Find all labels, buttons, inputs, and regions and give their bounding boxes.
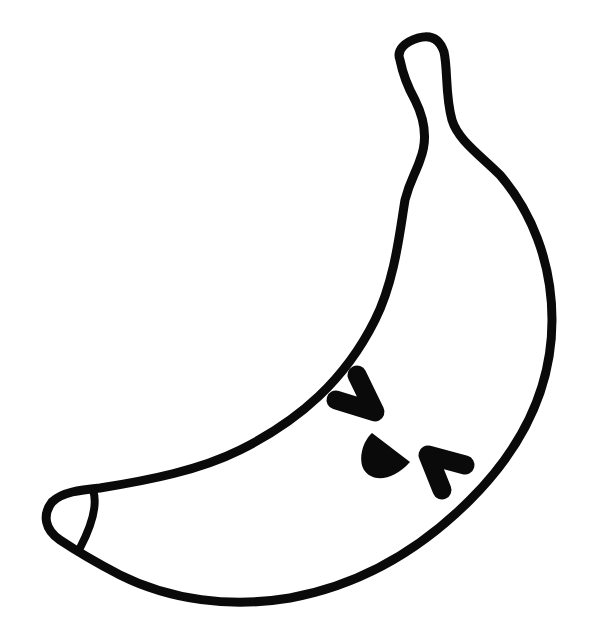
banana-illustration: Cute banana with a face <box>0 0 604 639</box>
banana-drawing <box>0 0 604 639</box>
banana-body-outline <box>46 37 552 602</box>
